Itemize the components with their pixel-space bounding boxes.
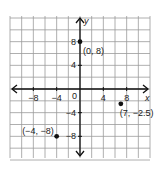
y-axis-label: y — [83, 16, 89, 26]
x-axis-label: x — [144, 93, 150, 103]
y-tick-label: −8 — [66, 131, 76, 141]
x-tick-label: 4 — [101, 93, 106, 103]
coordinate-plane: x y 0 −8−44884−4−8 (0, 8)(7, −2.5)(−4, −… — [0, 0, 167, 169]
data-point — [54, 134, 59, 139]
data-point — [118, 101, 123, 106]
data-point-label: (0, 8) — [83, 46, 104, 56]
data-point-label: (−4, −8) — [22, 126, 54, 136]
y-tick-label: 4 — [71, 60, 76, 70]
x-tick-label: −4 — [52, 93, 62, 103]
y-tick-label: −4 — [66, 108, 76, 118]
data-point-label: (7, −2.5) — [120, 108, 154, 118]
origin-label: 0 — [72, 91, 77, 101]
x-tick-label: 8 — [124, 93, 129, 103]
data-point — [78, 39, 83, 44]
y-tick-label: 8 — [71, 37, 76, 47]
x-tick-label: −8 — [28, 93, 38, 103]
